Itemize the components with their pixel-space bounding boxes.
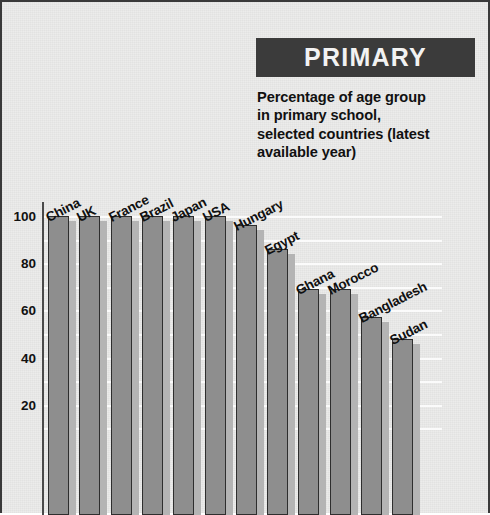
bar-front-face: [267, 249, 288, 515]
chart-title-block: PRIMARY: [256, 38, 475, 77]
bar-side-face: [68, 221, 76, 515]
bar-side-face: [412, 344, 420, 515]
bar-side-face: [99, 221, 107, 515]
bar-front-face: [298, 289, 319, 515]
bar: [330, 289, 359, 515]
y-axis-tick-label: 40: [0, 350, 36, 365]
bar-front-face: [48, 216, 69, 515]
bar: [267, 249, 296, 515]
bar-front-face: [173, 216, 194, 515]
bar: [142, 216, 171, 515]
bar: [48, 216, 77, 515]
bar: [361, 317, 390, 515]
bar-side-face: [287, 254, 295, 515]
subtitle-line-1: Percentage of age group: [257, 88, 487, 106]
bar-side-face: [131, 221, 139, 515]
subtitle-line-4: available year): [257, 143, 487, 161]
bar-side-face: [225, 221, 233, 515]
subtitle-line-3: selected countries (latest: [257, 125, 487, 143]
bar-front-face: [330, 289, 351, 515]
bar: [111, 216, 140, 515]
y-axis-tick-label: 100: [0, 209, 36, 224]
bar-front-face: [392, 339, 413, 515]
bar-front-face: [236, 225, 257, 515]
bar-side-face: [350, 294, 358, 515]
bar: [298, 289, 327, 515]
bar-front-face: [361, 317, 382, 515]
bar: [392, 339, 421, 515]
y-axis-tick-label: 60: [0, 303, 36, 318]
bar-front-face: [111, 216, 132, 515]
bar-chart-plot-area: ChinaUKFranceBrazilJapanUSAHungaryEgyptG…: [44, 216, 442, 515]
bar-side-face: [381, 322, 389, 515]
bar-front-face: [205, 216, 226, 515]
page-title: PRIMARY: [304, 45, 427, 70]
y-axis-tick-labels: 10080604020: [2, 216, 36, 515]
bar-front-face: [142, 216, 163, 515]
bar: [236, 225, 265, 515]
y-axis-tick-label: 20: [0, 397, 36, 412]
bar: [173, 216, 202, 515]
bar-side-face: [193, 221, 201, 515]
bar-side-face: [318, 294, 326, 515]
y-axis-tick-label: 80: [0, 256, 36, 271]
bar: [79, 216, 108, 515]
chart-subtitle: Percentage of age group in primary schoo…: [257, 88, 487, 162]
bar-front-face: [79, 216, 100, 515]
bar: [205, 216, 234, 515]
bar-side-face: [256, 230, 264, 515]
subtitle-line-2: in primary school,: [257, 106, 487, 124]
bar-side-face: [162, 221, 170, 515]
